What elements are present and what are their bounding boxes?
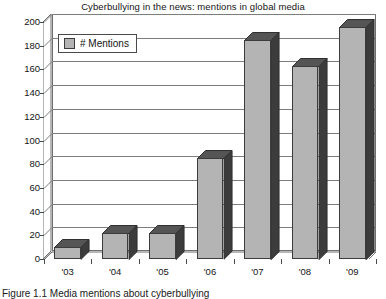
- bar-front-face: [197, 158, 224, 259]
- y-axis-tick-label: 0: [14, 254, 40, 264]
- bar-front-face: [244, 40, 271, 259]
- figure-container: Cyberbullying in the news: mentions in g…: [0, 0, 386, 299]
- y-axis-tick-label: 60: [14, 183, 40, 193]
- y-axis-tick: [40, 235, 44, 236]
- y-axis-tick-label: 160: [14, 64, 40, 74]
- chart-title: Cyberbullying in the news: mentions in g…: [0, 1, 386, 12]
- legend-label-mentions: # Mentions: [80, 38, 129, 49]
- y-axis-label-group: 020406080100120140160180200: [10, 22, 40, 259]
- bar-front-face: [102, 233, 129, 259]
- x-axis-label-03: '03: [48, 266, 88, 277]
- y-axis-tick-label: 40: [14, 207, 40, 217]
- y-axis-tick: [40, 69, 44, 70]
- y-axis-tick-label: 140: [14, 88, 40, 98]
- y-axis-tick: [40, 141, 44, 142]
- x-axis-label-08: '08: [285, 266, 325, 277]
- x-axis-tick: [186, 259, 187, 264]
- bar-09: [339, 19, 366, 259]
- bar-06: [197, 150, 224, 259]
- x-axis-tick: [281, 259, 282, 264]
- x-axis-label-07: '07: [237, 266, 277, 277]
- bar-03: [54, 239, 81, 259]
- y-axis-tick: [40, 259, 44, 260]
- x-axis-label-05: '05: [143, 266, 183, 277]
- y-axis-tick-label: 200: [14, 17, 40, 27]
- x-axis-tick: [91, 259, 92, 264]
- x-axis-label-09: '09: [332, 266, 372, 277]
- x-axis-tick: [44, 259, 45, 264]
- bar-front-face: [54, 247, 81, 259]
- chart-legend: # Mentions: [58, 34, 137, 53]
- x-axis-tick: [234, 259, 235, 264]
- y-axis-tick: [40, 188, 44, 189]
- y-axis-tick-label: 20: [14, 230, 40, 240]
- bar-front-face: [149, 233, 176, 259]
- x-axis-label-06: '06: [190, 266, 230, 277]
- gridline: [52, 14, 376, 15]
- bar-front-face: [292, 66, 319, 259]
- bar-05: [149, 225, 176, 259]
- figure-caption: Figure 1.1 Media mentions about cyberbul…: [2, 288, 209, 299]
- y-axis-tick: [40, 93, 44, 94]
- x-axis-label-04: '04: [95, 266, 135, 277]
- y-axis-tick: [40, 117, 44, 118]
- y-axis-tick: [40, 212, 44, 213]
- y-axis-tick-label: 180: [14, 41, 40, 51]
- bar-group: [44, 22, 376, 259]
- legend-swatch-mentions: [64, 38, 75, 49]
- y-axis-tick-label: 80: [14, 159, 40, 169]
- bar-08: [292, 58, 319, 259]
- y-axis-tick: [40, 46, 44, 47]
- bar-07: [244, 32, 271, 259]
- bar-front-face: [339, 27, 366, 259]
- x-axis-tick: [376, 259, 377, 264]
- y-axis-tick-label: 100: [14, 136, 40, 146]
- y-axis-tick-label: 120: [14, 112, 40, 122]
- x-axis-tick: [139, 259, 140, 264]
- y-axis-tick: [40, 22, 44, 23]
- x-axis-tick: [329, 259, 330, 264]
- bar-04: [102, 225, 129, 259]
- y-axis-tick: [40, 164, 44, 165]
